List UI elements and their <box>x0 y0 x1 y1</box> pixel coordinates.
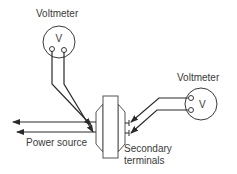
voltmeter-right-symbol: V <box>199 99 206 110</box>
voltmeter-top-leads <box>52 51 93 132</box>
voltmeter-right-label: Voltmeter <box>177 72 220 83</box>
lead-right-2 <box>131 110 188 133</box>
lead-top-2 <box>64 52 93 132</box>
transformer-test-diagram: Voltmeter V Power source Voltmeter V <box>0 0 237 174</box>
voltmeter-top-terminal-1 <box>50 47 55 52</box>
secondary-label-line1: Secondary <box>124 143 172 154</box>
voltmeter-top: Voltmeter V <box>36 8 79 58</box>
voltmeter-right-terminal-1 <box>189 96 194 101</box>
voltmeter-right-leads <box>131 98 188 133</box>
voltmeter-right-terminal-2 <box>189 108 194 113</box>
voltmeter-top-terminal-2 <box>62 48 67 53</box>
secondary-terminals <box>125 120 129 136</box>
voltmeter-right: Voltmeter V <box>177 72 220 120</box>
lead-top-1 <box>52 51 91 125</box>
secondary-label-line2: terminals <box>124 155 165 166</box>
transformer-primary-side <box>96 104 103 152</box>
power-source-label: Power source <box>26 137 88 148</box>
voltmeter-top-symbol: V <box>56 33 63 44</box>
power-source-arrows <box>13 122 96 132</box>
voltmeter-top-label: Voltmeter <box>36 8 79 19</box>
transformer-body <box>96 96 125 158</box>
transformer-core <box>103 96 118 158</box>
